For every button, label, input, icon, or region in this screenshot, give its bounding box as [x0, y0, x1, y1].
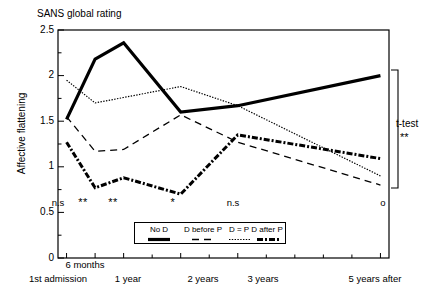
x-tick-label-6-months: 6 months [65, 259, 104, 270]
series-line-no-d [67, 43, 381, 120]
t-test-bracket [391, 70, 398, 188]
significance-marker-1st-admission: n.s [52, 198, 65, 208]
significance-marker-1-year: ** [108, 197, 118, 207]
x-tick-label-1st-admission: 1st admission [29, 273, 87, 284]
t-test-annotation-stars: ** [400, 131, 409, 143]
x-tick-label-2-years: 2 years [187, 273, 218, 284]
legend-swatches [135, 223, 287, 245]
x-tick-label-1-year: 1 year [115, 273, 141, 284]
legend: No D D before P D = P D after P [134, 222, 286, 244]
chart-figure: SANS global rating Affective flattening … [0, 0, 423, 295]
significance-marker-2-years: * [171, 197, 176, 207]
series-line-d-p [67, 80, 381, 176]
t-test-annotation-label: t-test [396, 118, 418, 129]
significance-marker-3-years: n.s [227, 198, 240, 208]
x-tick-label-3-years: 3 years [247, 273, 278, 284]
significance-marker-5-years-after: o [380, 198, 385, 208]
plot-canvas [0, 0, 423, 295]
series-line-d-after-p [67, 135, 381, 194]
significance-marker-6-months: ** [78, 197, 88, 207]
x-tick-label-5-years-after: 5 years after [349, 273, 402, 284]
